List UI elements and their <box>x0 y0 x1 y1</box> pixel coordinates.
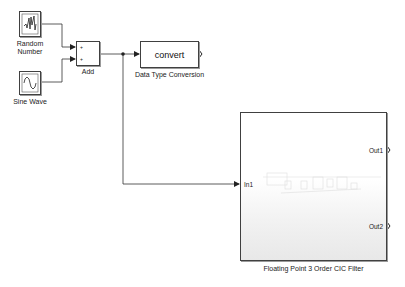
add-sign-1: + <box>80 44 83 51</box>
out1-port-label: Out1 <box>369 147 383 154</box>
wire-sine-to-add <box>41 59 75 82</box>
add-sign-2: + <box>80 56 83 63</box>
cic-filter-label: Floating Point 3 Order CIC Filter <box>240 265 387 273</box>
sine-wave-block[interactable] <box>19 71 41 95</box>
convert-out-port <box>199 50 202 58</box>
out2-port <box>387 222 390 230</box>
random-signal-icon <box>20 12 40 36</box>
data-type-conversion-label: Data Type Conversion <box>125 71 214 79</box>
add-label: Add <box>76 68 100 76</box>
subsystem-preview-icon <box>241 113 386 260</box>
branch-point <box>121 52 125 56</box>
out2-port-label: Out2 <box>369 223 383 230</box>
random-number-label: Random Number <box>8 40 52 56</box>
cic-filter-subsystem[interactable]: In1 Out1 Out2 <box>240 112 387 261</box>
convert-text: convert <box>155 50 185 60</box>
add-block[interactable]: + + <box>76 41 100 66</box>
data-type-conversion-block[interactable]: convert <box>140 41 199 68</box>
in1-port-label: In1 <box>244 181 253 188</box>
sine-wave-label: Sine Wave <box>8 98 52 106</box>
simulink-canvas[interactable]: Random Number Sine Wave + + Add convert … <box>0 0 405 287</box>
sine-wave-icon <box>20 72 40 94</box>
out1-port <box>387 146 390 154</box>
random-number-block[interactable] <box>19 11 41 37</box>
